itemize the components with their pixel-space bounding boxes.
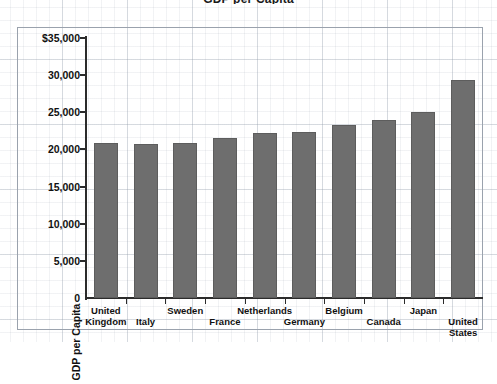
y-axis-tick-label: 15,000 (48, 181, 80, 193)
x-axis-category-label: France (209, 316, 240, 327)
x-axis-category-label: UnitedStates (448, 316, 478, 338)
x-axis-tick-mark (443, 298, 444, 304)
x-axis-category-label: UnitedKingdom (85, 305, 126, 327)
y-axis-tick-label: 25,000 (48, 106, 80, 118)
x-axis-tick-mark (364, 298, 365, 304)
x-axis-tick-mark (404, 298, 405, 304)
y-axis-tick-label: 5,000 (54, 255, 80, 267)
x-axis-category-label: Canada (367, 316, 401, 327)
y-axis-tick-label: 30,000 (48, 69, 80, 81)
bar (411, 112, 435, 298)
bar (451, 80, 475, 298)
x-axis-category-label: Germany (284, 316, 325, 327)
bar (134, 144, 158, 298)
bar (292, 132, 316, 298)
x-axis-tick-mark (285, 298, 286, 304)
bar (253, 133, 277, 298)
y-axis-tick-label: $35,000 (42, 32, 80, 44)
y-axis-tick-labels: 05,00010,00015,00020,00025,00030,000$35,… (18, 0, 80, 342)
y-axis-tick-label: 20,000 (48, 143, 80, 155)
x-axis-tick-mark (245, 298, 246, 304)
bar (213, 138, 237, 298)
x-axis-tick-mark (205, 298, 206, 304)
x-axis-tick-mark (324, 298, 325, 304)
x-axis-category-label: Sweden (167, 305, 203, 316)
x-axis-category-label: Belgium (325, 305, 362, 316)
bar (372, 120, 396, 298)
bar (173, 143, 197, 298)
x-axis-category-label: Netherlands (237, 305, 292, 316)
x-axis-tick-mark (165, 298, 166, 304)
y-axis-tick-label: 10,000 (48, 218, 80, 230)
x-axis-category-label: Japan (410, 305, 437, 316)
x-axis-category-label: Italy (136, 316, 155, 327)
bar (332, 125, 356, 298)
bar (94, 143, 118, 298)
x-axis-tick-mark (126, 298, 127, 304)
plot-area (86, 38, 483, 298)
y-axis-tick-label: 0 (74, 292, 80, 304)
